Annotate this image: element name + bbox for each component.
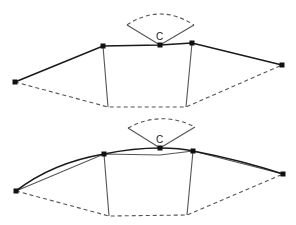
bottom-fan-right-arm (160, 127, 195, 148)
top-node-c (158, 43, 163, 48)
bottom-node-upper-left (102, 152, 107, 157)
bottom-chord-polyline (16, 151, 283, 191)
top-node-upper-left (101, 44, 106, 49)
top-label-c: C (156, 31, 163, 42)
top-fan-arc (127, 14, 194, 25)
top-figure: C (13, 14, 285, 107)
bottom-right-vertical (187, 151, 193, 215)
top-lower-dashed-boundary (15, 65, 282, 107)
bottom-figure: C (14, 119, 286, 216)
top-node-right (280, 63, 285, 68)
bottom-left-vertical (104, 154, 109, 216)
top-node-left (13, 80, 18, 85)
bottom-node-c (158, 146, 163, 151)
bottom-lower-dashed-boundary (16, 174, 283, 216)
bottom-node-left (14, 189, 19, 194)
diagram-canvas: C C (0, 0, 296, 225)
bottom-fan-arc (128, 119, 195, 128)
bottom-label-c: C (156, 134, 163, 145)
bottom-node-right (281, 172, 286, 177)
bottom-node-upper-right (191, 149, 196, 154)
top-node-upper-right (190, 41, 195, 46)
top-left-vertical (103, 46, 108, 107)
top-fan-right-arm (160, 25, 194, 45)
top-upper-polyline (15, 43, 282, 82)
top-right-vertical (186, 43, 192, 107)
